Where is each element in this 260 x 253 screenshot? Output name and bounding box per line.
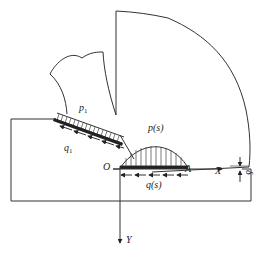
tool-body xyxy=(116,11,250,172)
label-q1: q1 xyxy=(64,142,73,155)
label-delta: δ xyxy=(244,170,255,175)
label-point-a: A xyxy=(184,163,192,174)
distributed-shear-load-q1 xyxy=(60,126,124,148)
contact-pressure-ps xyxy=(120,146,188,169)
label-origin: O xyxy=(103,161,110,172)
cutting-diagram: p1 q1 p(s) q(s) O A X Y δ xyxy=(0,0,260,253)
label-p1: p1 xyxy=(78,102,88,115)
label-ps: p(s) xyxy=(147,122,164,134)
label-qs: q(s) xyxy=(146,179,162,191)
label-x-axis: X xyxy=(214,165,222,176)
label-y-axis: Y xyxy=(126,234,133,245)
